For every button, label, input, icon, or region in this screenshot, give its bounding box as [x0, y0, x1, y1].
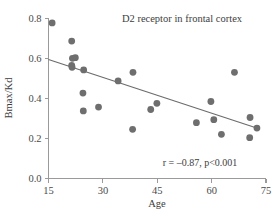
data-point — [69, 64, 76, 71]
data-point — [218, 131, 225, 138]
data-point — [80, 108, 87, 115]
statistics-annotation: r = –0.87, p<0.001 — [163, 157, 238, 168]
data-point — [49, 20, 56, 27]
data-point — [95, 104, 102, 111]
data-point — [254, 125, 261, 132]
x-axis: 1530456075 Age — [43, 179, 271, 210]
x-tick-label: 60 — [206, 185, 217, 196]
regression-trend-line — [49, 60, 256, 128]
y-axis-ticks — [45, 19, 49, 179]
data-point — [130, 69, 137, 76]
x-axis-ticks — [49, 179, 267, 183]
data-point — [129, 126, 136, 133]
data-points — [49, 20, 261, 142]
y-tick-label: 0.2 — [28, 133, 41, 144]
data-point — [208, 98, 215, 105]
scatter-plot-figure: D2 receptor in frontal cortex 0.00.20.40… — [0, 0, 279, 218]
x-tick-label: 75 — [261, 185, 272, 196]
y-tick-label: 0.8 — [28, 13, 41, 24]
chart-canvas: D2 receptor in frontal cortex 0.00.20.40… — [0, 0, 279, 218]
chart-title: D2 receptor in frontal cortex — [122, 13, 243, 24]
data-point — [247, 114, 254, 121]
data-point — [147, 106, 154, 113]
data-point — [80, 67, 87, 74]
x-axis-title: Age — [148, 198, 166, 209]
data-point — [193, 119, 200, 126]
data-point — [231, 69, 238, 76]
data-point — [246, 134, 253, 141]
x-tick-label: 45 — [152, 185, 163, 196]
x-tick-label: 30 — [98, 185, 109, 196]
y-tick-label: 0.6 — [28, 53, 41, 64]
x-tick-label: 15 — [43, 185, 54, 196]
data-point — [115, 78, 122, 85]
y-axis-tick-labels: 0.00.20.40.60.8 — [28, 13, 42, 184]
data-point — [153, 100, 160, 107]
data-point — [72, 54, 79, 61]
data-point — [68, 38, 75, 45]
data-point — [210, 116, 217, 123]
y-tick-label: 0.0 — [28, 173, 41, 184]
y-axis-title: Bmax/Kd — [3, 77, 14, 119]
y-axis: 0.00.20.40.60.8 Bmax/Kd — [3, 13, 49, 184]
y-tick-label: 0.4 — [28, 93, 42, 104]
data-point — [80, 90, 87, 97]
x-axis-tick-labels: 1530456075 — [43, 185, 271, 196]
